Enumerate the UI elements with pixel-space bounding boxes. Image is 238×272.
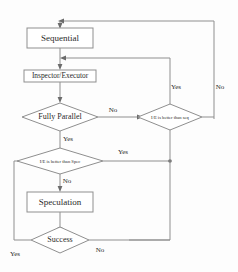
flowchart-svg: Sequential Inspector/Executor Fully Para…	[0, 0, 238, 272]
flowchart-canvas: Sequential Inspector/Executor Fully Para…	[0, 0, 238, 272]
node-ie-better-than-seq[interactable]: I/E is better than seq	[138, 104, 202, 130]
node-sequential[interactable]: Sequential	[27, 28, 93, 48]
node-fully-parallel[interactable]: Fully Parallel	[22, 103, 98, 131]
edge-sequential-to-inspector	[58, 48, 63, 70]
edge-label-ie-vs-seq-yes: Yes	[171, 83, 181, 91]
edge-label-success-no: No	[96, 246, 105, 254]
edge-fully-parallel-no-to-ie-vs-seq	[98, 115, 143, 120]
edge-ie-vs-spec-yes-to-rail	[103, 159, 172, 163]
edge-label-fully-parallel-yes: Yes	[63, 135, 73, 143]
edge-inspector-to-fully-parallel	[58, 82, 63, 103]
node-inspector-executor-label: Inspector/Executor	[32, 71, 89, 80]
edge-label-ie-vs-seq-no: No	[216, 83, 225, 91]
node-speculation-label: Speculation	[39, 197, 82, 207]
node-inspector-executor[interactable]: Inspector/Executor	[24, 70, 96, 82]
node-success[interactable]: Success	[31, 227, 89, 253]
node-speculation[interactable]: Speculation	[27, 192, 93, 212]
edge-label-ie-vs-spec-no: No	[63, 177, 72, 185]
node-ie-better-than-spec[interactable]: I/E is better than Spec	[17, 148, 103, 174]
node-ie-better-than-seq-label: I/E is better than seq	[151, 115, 189, 120]
edge-label-ie-vs-spec-yes: Yes	[118, 148, 128, 156]
edge-label-success-yes: Yes	[10, 250, 20, 258]
node-success-label: Success	[47, 235, 72, 244]
edge-right-rail-down	[129, 124, 170, 240]
node-sequential-label: Sequential	[41, 33, 79, 43]
edge-label-fully-parallel-no: No	[109, 106, 118, 114]
node-fully-parallel-label: Fully Parallel	[38, 112, 82, 121]
node-ie-better-than-spec-label: I/E is better than Spec	[40, 159, 81, 164]
